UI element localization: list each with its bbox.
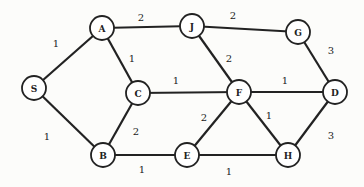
edge-weight-j-f: 2 (226, 53, 232, 64)
node-label: G (294, 28, 302, 38)
node-label: J (189, 22, 194, 32)
node-label: C (134, 89, 141, 99)
edge-weight-j-g: 2 (230, 10, 236, 21)
node-b: B (91, 143, 115, 167)
node-label: E (184, 151, 191, 161)
edge-weight-b-e: 1 (139, 164, 145, 175)
node-label: A (98, 24, 107, 34)
node-label: F (236, 88, 243, 98)
node-j: J (180, 14, 204, 38)
edge-a-j (102, 26, 192, 28)
node-s: S (22, 76, 46, 100)
node-g: G (286, 20, 310, 44)
edge-weight-e-h: 1 (226, 166, 232, 177)
edge-weight-f-h: 1 (266, 110, 272, 121)
edge-weight-c-f: 1 (173, 75, 179, 86)
edge-s-a (34, 28, 102, 88)
edge-weight-a-j: 2 (138, 12, 144, 23)
node-c: C (126, 81, 150, 105)
node-label: D (331, 88, 339, 98)
edge-weight-h-d: 3 (328, 130, 334, 141)
node-h: H (276, 143, 300, 167)
node-label: B (99, 151, 107, 161)
nodes-layer: SAJGCFDBEH (22, 14, 347, 167)
node-f: F (227, 80, 251, 104)
edge-weight-s-a: 1 (53, 38, 59, 49)
edges-layer (34, 26, 335, 155)
node-label: H (284, 151, 293, 161)
edge-weight-f-d: 1 (282, 75, 288, 86)
weighted-graph-diagram: 112122311221113 SAJGCFDBEH (0, 0, 364, 187)
edge-weight-s-b: 1 (44, 131, 50, 142)
node-label: S (31, 84, 38, 94)
node-e: E (175, 143, 199, 167)
edge-weight-a-c: 1 (129, 53, 135, 64)
edge-c-f (138, 92, 239, 93)
edge-weight-g-d: 3 (328, 45, 334, 56)
edge-weight-c-b: 2 (133, 126, 139, 137)
edge-s-b (34, 88, 103, 155)
node-d: D (323, 80, 347, 104)
edge-j-g (192, 26, 298, 32)
node-a: A (90, 16, 114, 40)
edge-weight-f-e: 2 (201, 112, 207, 123)
